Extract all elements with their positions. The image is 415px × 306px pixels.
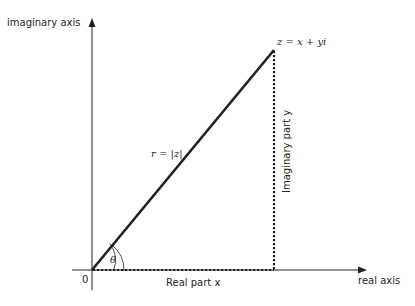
origin-label: 0 <box>82 274 88 285</box>
complex-plane-diagram: imaginary axis real axis 0 z = x + yi r … <box>0 0 415 306</box>
real-axis-label: real axis <box>358 275 400 286</box>
imaginary-axis-label: imaginary axis <box>7 17 80 28</box>
imaginary-part-label: Imaginary part y <box>281 110 292 193</box>
real-axis <box>72 267 367 274</box>
point-z-label: z = x + yi <box>276 36 326 47</box>
real-part-label: Real part x <box>166 277 220 288</box>
radius-label: r = |z| <box>151 148 183 160</box>
angle-label: θ <box>110 254 116 265</box>
radius-vector <box>92 50 274 270</box>
arrowhead-up-icon <box>89 18 96 27</box>
arrowhead-right-icon <box>358 267 367 274</box>
imaginary-axis <box>89 18 96 290</box>
